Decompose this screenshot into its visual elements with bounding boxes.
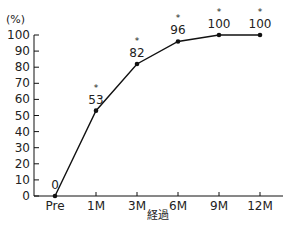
x-tick-label: 9M <box>210 199 228 213</box>
data-point-marker <box>176 39 181 44</box>
y-tick-label: 10 <box>15 173 30 187</box>
significance-asterisk: * <box>94 83 99 93</box>
data-point-marker <box>258 33 263 38</box>
y-tick-label: 50 <box>15 109 30 123</box>
significance-asterisk: * <box>217 7 222 17</box>
data-value-label: 82 <box>129 46 144 60</box>
data-point-marker <box>135 62 140 67</box>
y-tick-label: 20 <box>15 157 30 171</box>
significance-asterisk: * <box>176 13 181 23</box>
y-tick-label: 70 <box>15 76 30 90</box>
data-point-marker <box>53 194 58 199</box>
data-series: 053*82*96*100*100* <box>51 7 271 198</box>
y-tick-label: 60 <box>15 92 30 106</box>
y-axis: 0102030405060708090100 <box>7 28 39 203</box>
y-tick-label: 0 <box>22 189 30 203</box>
significance-asterisk: * <box>258 7 263 17</box>
significance-asterisk: * <box>135 36 140 46</box>
data-point-marker <box>217 33 222 38</box>
data-value-label: 100 <box>208 17 231 31</box>
line-chart: 0102030405060708090100 Pre1M3M6M9M12M 05… <box>0 0 293 231</box>
data-point-marker <box>94 108 99 113</box>
truncated-caption <box>0 225 293 231</box>
y-tick-label: 40 <box>15 125 30 139</box>
x-tick-label: Pre <box>45 199 64 213</box>
x-tick-label: 12M <box>247 199 273 213</box>
data-value-label: 100 <box>249 17 272 31</box>
x-tick-label: 6M <box>169 199 187 213</box>
data-value-label: 96 <box>170 23 185 37</box>
x-tick-label: 3M <box>128 199 146 213</box>
data-value-label: 0 <box>51 178 59 192</box>
x-axis-title: 経過 <box>147 209 169 222</box>
series-line <box>55 35 260 196</box>
y-tick-label: 80 <box>15 60 30 74</box>
y-tick-label: 100 <box>7 28 30 42</box>
y-tick-label: 30 <box>15 141 30 155</box>
y-tick-label: 90 <box>15 44 30 58</box>
data-value-label: 53 <box>88 93 103 107</box>
x-tick-label: 1M <box>87 199 105 213</box>
y-axis-unit-label: (%) <box>6 13 25 26</box>
